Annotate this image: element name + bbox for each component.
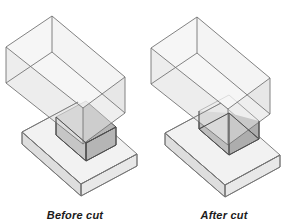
panel-after-cut: After cut: [149, 0, 299, 223]
after-cut-drawing: [149, 0, 299, 200]
caption-before-cut: Before cut: [0, 209, 150, 221]
caption-after-cut: After cut: [149, 209, 299, 221]
panel-before-cut: .e{fill:none;stroke:#757575;stroke-width…: [0, 0, 150, 223]
upper-box: [151, 17, 270, 145]
before-cut-drawing: .e{fill:none;stroke:#757575;stroke-width…: [0, 0, 150, 200]
diagram-canvas: .e{fill:none;stroke:#757575;stroke-width…: [0, 0, 299, 223]
